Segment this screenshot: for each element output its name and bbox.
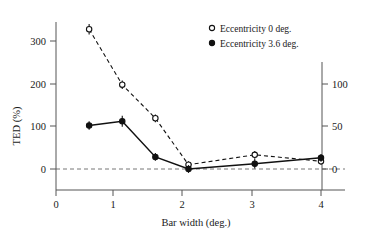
x-ticklabel-1: 1: [110, 199, 115, 210]
data-point-marker: [318, 155, 323, 160]
chart-legend: Eccentricity 0 deg. Eccentricity 3.6 deg…: [209, 24, 298, 49]
data-point-marker: [86, 27, 91, 32]
legend-marker-open-circle: [209, 25, 214, 30]
chart-plot-area: 300 200 100 0 TED (%) 100 50 0 0 1: [0, 0, 367, 232]
data-point-marker: [86, 123, 91, 128]
series-eccentricity-3-6: [86, 116, 323, 173]
y-ticklabel-300: 300: [30, 36, 46, 47]
data-point-marker: [153, 154, 158, 159]
legend-label-0: Eccentricity 0 deg.: [220, 24, 291, 34]
x-axis: 0 1 2 3 4 Bar width (deg.): [53, 190, 345, 229]
y-axis-left: 300 200 100 0 TED (%): [11, 22, 56, 190]
y-ticklabel-0: 0: [41, 164, 46, 175]
x-ticklabel-2: 2: [179, 199, 184, 210]
y-right-ticklabel-0: 0: [332, 164, 337, 175]
data-point-marker: [252, 161, 257, 166]
y-axis-right: 100 50 0: [322, 62, 348, 190]
x-ticklabel-0: 0: [53, 199, 58, 210]
y-right-ticklabel-50: 50: [332, 121, 343, 132]
data-point-marker: [120, 82, 125, 87]
data-point-marker: [186, 166, 191, 171]
x-ticklabel-4: 4: [318, 199, 324, 210]
x-ticklabel-3: 3: [249, 199, 254, 210]
y-axis-title: TED (%): [11, 106, 23, 145]
y-ticklabel-100: 100: [30, 121, 46, 132]
chart-figure: 300 200 100 0 TED (%) 100 50 0 0 1: [0, 0, 367, 232]
data-point-marker: [153, 116, 158, 121]
legend-marker-filled-circle: [209, 40, 214, 45]
y-ticklabel-200: 200: [30, 79, 46, 90]
x-axis-title: Bar width (deg.): [161, 217, 231, 229]
y-right-ticklabel-100: 100: [332, 79, 348, 90]
series-line: [89, 29, 321, 164]
data-point-marker: [252, 152, 257, 157]
legend-label-1: Eccentricity 3.6 deg.: [220, 39, 299, 49]
data-point-marker: [120, 119, 125, 124]
